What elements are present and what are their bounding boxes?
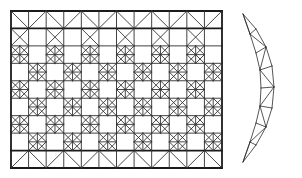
mesh-figure-container xyxy=(0,0,302,178)
crescent-outer-edge xyxy=(272,66,274,87)
crescent-outer-edge xyxy=(266,108,272,127)
mesh-diagonal xyxy=(81,11,99,28)
mesh-diagonal xyxy=(169,11,187,28)
mesh-diagonal xyxy=(117,151,135,168)
crescent-outer-edge xyxy=(243,145,256,162)
crescent-rung xyxy=(261,87,274,88)
mesh-diagonal xyxy=(11,151,29,168)
mesh-diagonal xyxy=(117,11,135,28)
mesh-diagonal xyxy=(64,151,82,168)
mesh-diagonal xyxy=(187,151,205,168)
mesh-diagonal xyxy=(134,11,152,28)
mesh-diagonal xyxy=(64,11,82,28)
crescent-diagonal xyxy=(243,142,250,162)
mesh-diagonal xyxy=(134,151,152,168)
crescent-diagonal xyxy=(260,87,274,106)
crescent-inner-edge xyxy=(260,88,261,106)
crescent-outer-edge xyxy=(243,14,256,29)
crescent-outer-edge xyxy=(272,87,274,108)
mesh-diagonal xyxy=(169,151,187,168)
mesh-diagonal xyxy=(11,11,29,28)
mesh-diagonal xyxy=(99,151,117,168)
crescent-rung xyxy=(260,66,272,70)
mesh-diagonal xyxy=(29,11,47,28)
crescent-inner-edge xyxy=(256,106,260,123)
mesh-diagonal xyxy=(46,151,64,168)
crescent-outer-edge xyxy=(256,127,266,145)
crescent-diagonal xyxy=(260,106,266,127)
rectangular-mesh-group xyxy=(11,11,222,168)
crescent-outer-edge xyxy=(266,47,272,66)
crescent-rung xyxy=(250,142,256,145)
crescent-diagonal xyxy=(260,70,274,87)
crescent-rung xyxy=(256,123,266,127)
crescent-inner-edge xyxy=(256,53,260,70)
crescent-rung xyxy=(260,106,272,108)
crescent-mesh-group xyxy=(243,14,274,162)
crescent-outer-edge xyxy=(256,29,266,47)
mesh-diagram-svg xyxy=(0,0,302,178)
crescent-inner-edge xyxy=(260,70,261,88)
mesh-diagonal xyxy=(81,151,99,168)
mesh-diagonal xyxy=(46,11,64,28)
mesh-diagonal xyxy=(204,151,222,168)
mesh-diagonal xyxy=(204,11,222,28)
mesh-diagonal xyxy=(152,151,170,168)
crescent-diagonal xyxy=(243,14,250,34)
mesh-diagonal xyxy=(152,11,170,28)
mesh-diagonal xyxy=(187,11,205,28)
crescent-rung xyxy=(250,29,256,34)
mesh-diagonal xyxy=(29,151,47,168)
mesh-diagonal xyxy=(99,11,117,28)
